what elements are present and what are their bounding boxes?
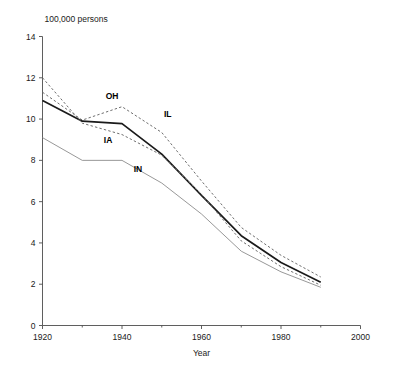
series-line-il <box>43 100 321 282</box>
x-tick-label: 1980 <box>272 332 291 342</box>
y-tick-label: 10 <box>26 114 36 124</box>
series-label-in: IN <box>134 164 143 174</box>
y-tick-label: 12 <box>26 73 36 83</box>
series-line-oh <box>43 92 321 277</box>
chart-text-labels: 0246810121419201940196019802000100,000 p… <box>26 14 370 358</box>
y-tick-label: 4 <box>31 238 36 248</box>
y-tick-label: 2 <box>31 279 36 289</box>
y-tick-label: 0 <box>31 321 36 331</box>
series-label-ia: IA <box>104 135 113 145</box>
series-line-ia <box>43 78 321 285</box>
y-tick-label: 8 <box>31 155 36 165</box>
chart-canvas: 0246810121419201940196019802000100,000 p… <box>0 0 393 375</box>
x-tick-label: 1940 <box>113 332 132 342</box>
series-label-il: IL <box>164 109 172 119</box>
series-label-oh: OH <box>106 91 119 101</box>
x-tick-label: 2000 <box>351 332 370 342</box>
chart-figure: 0246810121419201940196019802000100,000 p… <box>0 0 393 375</box>
chart-axes <box>39 37 361 330</box>
y-axis-unit-label: 100,000 persons <box>45 14 108 24</box>
y-tick-label: 6 <box>31 197 36 207</box>
chart-series <box>43 78 321 288</box>
x-axis-title: Year <box>193 348 210 358</box>
x-tick-label: 1920 <box>33 332 52 342</box>
y-tick-label: 14 <box>26 32 36 42</box>
series-line-in <box>43 138 321 288</box>
x-tick-label: 1960 <box>192 332 211 342</box>
